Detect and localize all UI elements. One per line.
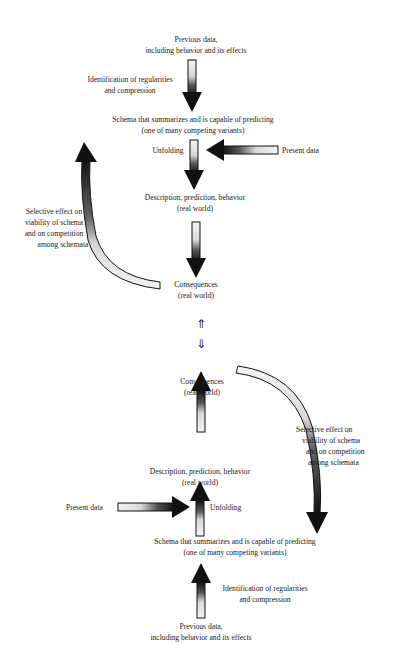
arrow-identification-down [182, 60, 202, 112]
bottom-present-data-label: Present data [66, 502, 103, 513]
top-identification-label: Identification of regularities and compr… [80, 74, 180, 96]
bottom-selective-effect-label: Selective effect on viability of schema … [296, 424, 386, 468]
top-consequences-label: Consequences (real world) [165, 279, 227, 301]
arrows-layer [0, 0, 397, 668]
arrow-consequences-down [186, 222, 206, 278]
bottom-identification-label: Identification of regularities and compr… [215, 583, 315, 605]
arrow-unfolding-up [190, 481, 210, 536]
double-up-arrow-icon: ⇑ [196, 318, 206, 330]
arrow-identification-up [191, 563, 211, 618]
top-schema-label: Schema that summarizes and is capable of… [58, 114, 328, 136]
arrow-present-data-left [206, 139, 278, 161]
arrow-present-data-right [118, 496, 190, 518]
bottom-description-label: Description, prediction, behavior (real … [140, 466, 260, 488]
top-selective-effect-label: Selective effect on viability of schema … [14, 206, 94, 250]
bottom-schema-label: Schema that summarizes and is capable of… [100, 536, 370, 558]
double-down-arrow-icon: ⇓ [196, 338, 206, 350]
bottom-unfolding-label: Unfolding [210, 502, 241, 513]
top-previous-data-label: Previous data, including behavior and it… [131, 34, 261, 56]
bottom-consequences-label: Consequences (real world) [171, 376, 233, 398]
bottom-previous-data-label: Previous data, including behavior and it… [136, 621, 266, 643]
top-unfolding-label: Unfolding [148, 145, 188, 156]
top-present-data-label: Present data [282, 145, 319, 156]
top-description-label: Description, prediction, behavior (real … [135, 192, 255, 214]
